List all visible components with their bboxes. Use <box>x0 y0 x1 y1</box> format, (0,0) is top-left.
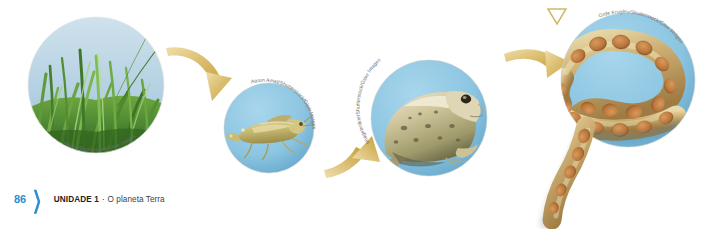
page-number: 86 <box>14 194 26 205</box>
arrow-grass-to-grasshopper <box>166 47 232 101</box>
node-grasshopper <box>224 83 324 173</box>
node-snake <box>546 13 695 224</box>
arrow-frog-to-snake <box>504 49 570 78</box>
unit-label: UNIDADE 1 <box>54 195 99 204</box>
unit-subtitle: O planeta Terra <box>108 195 165 204</box>
arrow-grasshopper-to-frog <box>324 136 380 178</box>
snake-tail <box>548 126 592 220</box>
chevron-right-icon: ❯ <box>32 187 42 211</box>
node-frog <box>371 60 487 176</box>
footer-separator: · <box>102 195 105 204</box>
node-grass <box>28 17 168 153</box>
page-footer: 86 ❯ UNIDADE 1 · O planeta Terra <box>14 189 165 209</box>
triangle-marker <box>548 9 566 24</box>
